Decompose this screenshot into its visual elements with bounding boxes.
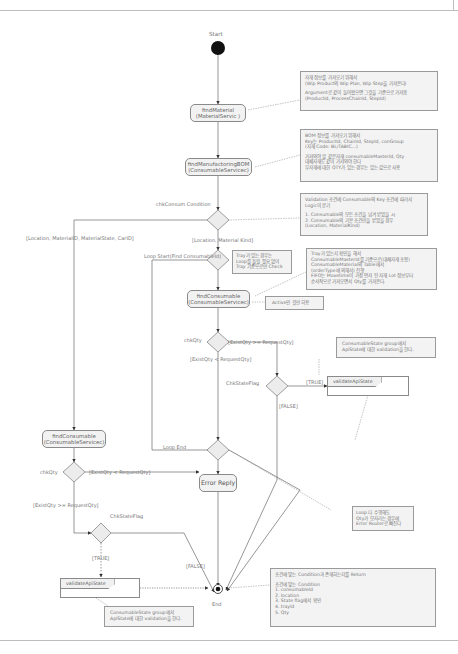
note-validation: Validation 조건에 Consumable의 Key 조건에 따라서 L… xyxy=(300,193,428,236)
action-find-consumable-loop-service: (ConsumableServicec) xyxy=(188,299,249,305)
action-find-manufacturing-bom[interactable]: findManufactoringBOM (ConsumableServicec… xyxy=(185,158,252,176)
frame-validate-api-state-left-tab: validateApiState xyxy=(61,579,115,589)
label-chk-qty-left: chkQty xyxy=(40,469,58,475)
note-line: 부자재에 대한 QTY가 있는 경우는 있는 값으로 사용 xyxy=(305,165,433,171)
action-find-consumable-left[interactable]: findConsumable (ConsumableServicec) xyxy=(42,430,106,448)
decision-chk-consum-condition xyxy=(207,210,229,230)
label-guard-down: [Location, Material Kind] xyxy=(192,237,253,243)
note-line: Tray 기준으로만 Check xyxy=(236,264,288,270)
note-line: ApiState에 대한 validation을 한다. xyxy=(110,616,188,622)
start-node xyxy=(211,41,225,55)
note-line: Error Router로 빠진다 xyxy=(356,521,410,527)
start-label: Start xyxy=(209,31,223,37)
note-state-left: ConsumableState group에서 ApiState에 대한 val… xyxy=(104,606,194,627)
label-guard-left-lt: [ExistQty < RequestQty] xyxy=(89,469,150,475)
action-find-material-service: (MaterialServic ) xyxy=(196,113,240,119)
note-tray-check: Tray가 있는지 확인을 해서 ConsumableMasterId를 기준으… xyxy=(306,248,437,290)
decision-loop-end xyxy=(207,440,229,460)
note-line: Active인 것만 허용 xyxy=(272,300,317,306)
action-find-consumable-loop[interactable]: findConsumable (ConsumableServicec) xyxy=(187,290,250,308)
decision-chk-state-flag-left xyxy=(91,523,111,543)
label-chk-qty-loop: chkQty xyxy=(184,337,202,343)
note-active: Active인 것만 허용 xyxy=(265,296,324,310)
decision-chk-qty-loop xyxy=(207,332,229,352)
action-bom-service: (ConsumableServicec) xyxy=(188,167,249,173)
note-line: 순서적으로 가져오면서 Qty를 가져온다. xyxy=(311,279,432,285)
action-error-reply-label: Error Reply xyxy=(201,480,235,486)
label-guard-exist-ge: [ExistQty >= RequestQty] xyxy=(228,339,294,345)
label-chk-state-flag-left: ChkStateFlag xyxy=(110,513,143,519)
action-error-reply[interactable]: Error Reply xyxy=(199,474,237,492)
note-line: (Location, MaterialKind) xyxy=(305,223,423,229)
frame-validate-api-state-left[interactable]: validateApiState xyxy=(60,578,140,598)
label-loop-end: Loop End xyxy=(163,444,186,450)
label-guard-left-ge: [ExistQty >= RequestQty] xyxy=(33,502,99,508)
decision-chk-state-flag-loop xyxy=(266,376,288,396)
label-chk-state-flag-loop: ChkStateFlag xyxy=(226,380,259,386)
note-material: 자재 정보를 가져오기 위해서 (Wip Product의 Wip Plan, … xyxy=(300,71,438,111)
end-label: End xyxy=(212,601,222,607)
frame-validate-api-state-right[interactable]: validateApiState xyxy=(327,376,409,396)
note-line: 5. Qty xyxy=(275,610,431,616)
label-guard-left: [Location, MaterialID, MaterialState, Ca… xyxy=(26,235,134,241)
label-true-left: [TRUE] xyxy=(92,555,109,561)
label-chk-consum-condition: chkConsum Condition xyxy=(156,201,211,207)
note-tray: Tray가 있는 경우는 Loop를 돌릴 필요 없이 Tray 기준으로만 C… xyxy=(232,250,292,274)
note-return: 조건에 맞는 Condition과 존재하는지를 Return 조건에 맞는 C… xyxy=(270,568,436,627)
note-line: ApiState에 대한 validation을 한다. xyxy=(342,347,430,353)
note-state-right: ConsumableState group에서 ApiState에 대한 val… xyxy=(336,337,436,358)
label-false-right: [FALSE] xyxy=(279,403,298,409)
decision-chk-qty-left xyxy=(63,462,85,482)
label-false-left: [FALSE] xyxy=(186,563,205,569)
action-find-material[interactable]: findMaterial (MaterialServic ) xyxy=(190,104,246,122)
note-loop-error: Loop 다 수행해도 Qty가 모자라는 경우에 Error Router로 … xyxy=(352,506,414,531)
note-bom: BOM 정보를 가져오기 위해서 Key는 ProductId, ChainId… xyxy=(300,129,438,182)
action-find-consumable-left-service: (ConsumableServicec) xyxy=(44,439,105,445)
note-line: Validation 조건에 Consumable의 Key 조건에 따라서 xyxy=(305,197,423,203)
label-loop-start: Loop Start(Find Consumableld) xyxy=(144,253,221,259)
label-guard-exist-lt: [ExistQty < RequestQty] xyxy=(190,356,251,362)
frame-validate-api-state-right-tab: validateApiState xyxy=(328,377,382,387)
note-line: (ProductId, ProcessChainId, StepId) xyxy=(305,96,433,102)
label-true-right: [TRUE] xyxy=(306,379,323,385)
